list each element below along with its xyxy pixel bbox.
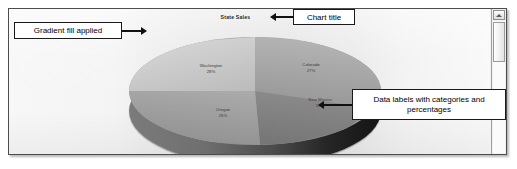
data-label-washington[interactable]: Washington 28%	[187, 63, 235, 74]
annotation-data-labels-text: Data labels with categories and percenta…	[358, 95, 500, 115]
annotation-data-labels: Data labels with categories and percenta…	[352, 89, 506, 120]
scroll-up-button[interactable]	[493, 10, 505, 20]
data-label-oregon[interactable]: Oregon 26%	[201, 107, 245, 118]
scrollbar-thumb[interactable]	[493, 22, 505, 62]
data-label-washington-percent: 28%	[187, 69, 235, 75]
screenshot-root: State Sales Washington 28% Colorado 27%	[0, 0, 517, 169]
arrow-line	[122, 30, 142, 32]
data-label-oregon-percent: 26%	[201, 113, 245, 119]
annotation-chart-title: Chart title	[293, 9, 355, 25]
data-label-colorado[interactable]: Colorado 27%	[287, 62, 335, 73]
triangle-up-icon	[496, 14, 502, 17]
annotation-arrow-chart-title	[270, 12, 295, 22]
arrow-head-right-icon	[141, 27, 147, 35]
data-label-colorado-name: Colorado	[302, 62, 319, 67]
arrow-head-left-icon	[318, 101, 324, 109]
pie-top-face	[129, 37, 381, 145]
chart-title[interactable]: State Sales	[9, 14, 476, 20]
annotation-gradient-fill: Gradient fill applied	[14, 22, 122, 39]
data-label-washington-name: Washington	[200, 63, 223, 68]
pie-chart[interactable]: Washington 28% Colorado 27% New Mexico 1…	[129, 37, 381, 154]
vertical-scrollbar[interactable]	[491, 9, 506, 154]
data-label-oregon-name: Oregon	[216, 107, 230, 112]
data-label-colorado-percent: 27%	[287, 68, 335, 74]
annotation-arrow-data-labels	[318, 100, 354, 110]
arrow-head-left-icon	[270, 13, 276, 21]
annotation-arrow-gradient-fill	[122, 26, 148, 36]
arrow-line	[324, 104, 354, 106]
